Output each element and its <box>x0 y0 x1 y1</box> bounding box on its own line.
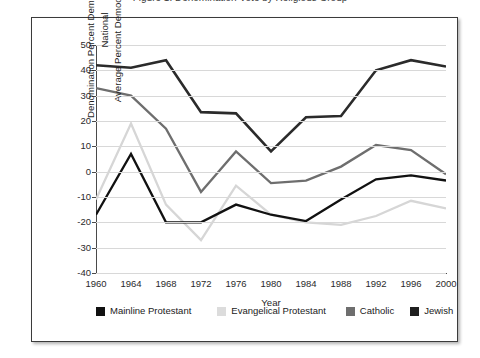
y-tick-mark <box>92 197 96 198</box>
gridline <box>96 273 446 274</box>
y-tick-mark <box>92 222 96 223</box>
gridline <box>96 45 446 46</box>
y-tick-mark <box>92 248 96 249</box>
legend-label: Catholic <box>360 306 394 316</box>
legend-label: Jewish <box>424 306 453 316</box>
gridline <box>96 121 446 122</box>
legend-item[interactable]: Mainline Protestant <box>96 306 191 316</box>
x-tick-label: 1960 <box>85 279 106 289</box>
gridline <box>96 96 446 97</box>
figure-container: Figure 1. Denomination Vote by Religious… <box>0 0 480 358</box>
legend-swatch-icon <box>217 307 226 316</box>
x-tick-label: 1996 <box>400 279 421 289</box>
x-tick-label: 1980 <box>260 279 281 289</box>
y-axis-label-line1: Denomination Percent Democratic Vote –Na… <box>85 0 110 118</box>
gridline <box>96 146 446 147</box>
x-tick-label: 1968 <box>155 279 176 289</box>
legend-label: Mainline Protestant <box>110 306 191 316</box>
series-line-jewish <box>96 60 446 151</box>
x-tick-label: 1988 <box>330 279 351 289</box>
y-axis-label: Denomination Percent Democratic Vote –Na… <box>84 0 125 133</box>
legend-label: Evangelical Protestant <box>231 306 326 316</box>
x-tick-label: 1984 <box>295 279 316 289</box>
y-tick-label: -30 <box>77 243 91 253</box>
y-tick-label: 10 <box>80 142 91 152</box>
gridline <box>96 197 446 198</box>
legend-swatch-icon <box>410 307 419 316</box>
y-tick-mark <box>92 273 96 274</box>
figure-title: Figure 1. Denomination Vote by Religious… <box>0 0 480 3</box>
gridline <box>96 222 446 223</box>
x-tick-label: 1972 <box>190 279 211 289</box>
y-tick-mark <box>92 146 96 147</box>
y-tick-mark <box>92 172 96 173</box>
gridline <box>96 70 446 71</box>
plot-area: 50403020100-10-20-30-40 1960196419681972… <box>96 45 446 273</box>
figure-frame: 50403020100-10-20-30-40 1960196419681972… <box>31 17 458 342</box>
y-tick-label: -10 <box>77 192 91 202</box>
y-tick-label: -40 <box>77 268 91 278</box>
gridline <box>96 248 446 249</box>
legend-item[interactable]: Catholic <box>346 306 394 316</box>
series-lines <box>96 45 446 273</box>
plot-wrapper: 50403020100-10-20-30-40 1960196419681972… <box>32 18 459 343</box>
y-tick-label: -20 <box>77 218 91 228</box>
legend-swatch-icon <box>346 307 355 316</box>
legend-swatch-icon <box>96 307 105 316</box>
chart-legend: Mainline ProtestantEvangelical Protestan… <box>96 306 448 316</box>
x-tick-label: 1992 <box>365 279 386 289</box>
legend-item[interactable]: Evangelical Protestant <box>217 306 326 316</box>
x-tick-label: 2000 <box>435 279 456 289</box>
legend-item[interactable]: Jewish <box>410 306 453 316</box>
x-tick-label: 1964 <box>120 279 141 289</box>
y-axis-label-line2: Average Percent Democratic Vote <box>112 0 123 102</box>
y-tick-label: 0 <box>86 167 91 177</box>
gridline <box>96 172 446 173</box>
x-tick-label: 1976 <box>225 279 246 289</box>
